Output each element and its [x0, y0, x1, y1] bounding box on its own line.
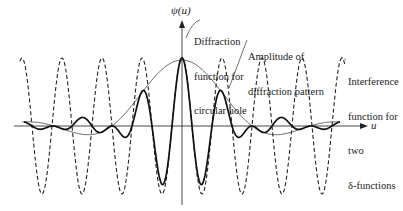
annotation-line: Diffraction — [194, 36, 247, 48]
annotation-line: circular hole — [194, 105, 247, 117]
annotation-line: diffraction pattern — [248, 86, 324, 98]
annotation-line: function for — [194, 71, 247, 83]
diffraction-annotation: Diffraction function for circular hole — [194, 13, 247, 128]
annotation-line: function for — [348, 111, 399, 123]
annotation-line: Amplitude of — [248, 51, 324, 63]
y-axis-label: ψ(u) — [171, 4, 191, 16]
annotation-line: δ-functions — [348, 180, 399, 192]
y-axis-arrow-icon — [179, 20, 185, 28]
annotation-line: two — [348, 145, 399, 157]
interference-annotation: Interference function for two δ-function… — [348, 53, 399, 203]
amplitude-annotation: Amplitude of diffraction pattern — [248, 28, 324, 109]
annotation-line: Interference — [348, 76, 399, 88]
